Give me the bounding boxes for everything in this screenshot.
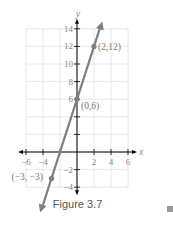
y-axis-label: y	[75, 8, 81, 19]
y-tick-label: 6	[69, 94, 74, 104]
y-tick-label: 8	[69, 77, 74, 87]
x-tick-label: −6	[21, 157, 31, 167]
figure-caption: Figure 3.7	[0, 198, 155, 210]
y-tick-label: −2	[63, 165, 73, 175]
x-tick-label: 4	[109, 157, 114, 167]
point-label: (2,12)	[98, 42, 121, 53]
x-tick-label: 2	[92, 157, 97, 167]
point-label: (−3, −3)	[12, 172, 43, 183]
coordinate-plane: −6−424614121086−2−4xy (−3, −3)(0,6)(2,12…	[0, 0, 173, 226]
data-point	[74, 97, 79, 102]
end-of-example-square-icon	[167, 206, 173, 212]
point-label: (0,6)	[81, 101, 99, 112]
y-tick-label: 12	[64, 41, 73, 51]
x-axis-arrow-icon	[132, 150, 137, 154]
tick-labels: −6−424614121086−2−4xy	[21, 8, 144, 192]
x-tick-label: 6	[126, 157, 131, 167]
data-point	[49, 176, 54, 181]
y-axis-arrow-icon	[75, 19, 79, 24]
y-tick-label: 14	[64, 24, 74, 34]
y-tick-label: −4	[63, 182, 73, 192]
data-point	[91, 44, 96, 49]
x-axis-label: x	[138, 146, 144, 157]
y-axis-arrow-icon	[75, 190, 79, 195]
x-tick-label: −4	[38, 157, 48, 167]
y-tick-label: 10	[64, 59, 74, 69]
x-axis-arrow-icon	[18, 150, 23, 154]
